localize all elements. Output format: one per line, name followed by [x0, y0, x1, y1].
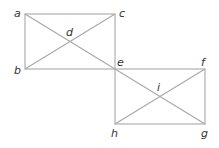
label-b: b [14, 64, 21, 77]
label-g: g [201, 127, 208, 140]
label-f: f [201, 56, 207, 69]
label-e: e [117, 56, 124, 69]
label-a: a [14, 7, 21, 20]
label-h: h [111, 127, 118, 140]
geometry-diagram: a b c d e f g h i [0, 0, 219, 148]
label-i: i [157, 81, 160, 94]
label-c: c [119, 7, 125, 20]
label-d: d [66, 26, 74, 39]
